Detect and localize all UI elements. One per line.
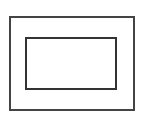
inner-rectangle (25, 37, 117, 90)
diagram-canvas (0, 0, 146, 120)
